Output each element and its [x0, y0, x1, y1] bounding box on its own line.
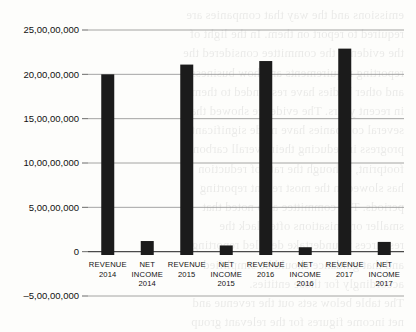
- x-axis-category-label: 2017: [376, 279, 394, 288]
- x-axis-category-label: INCOME: [369, 270, 400, 279]
- x-axis-labels: REVENUE2014NETINCOME2014REVENUE2015NETIN…: [89, 260, 400, 288]
- x-axis-category-label: INCOME: [132, 270, 163, 279]
- x-axis-category-label: REVENUE: [247, 260, 285, 269]
- x-axis-category-label: 2016: [297, 279, 315, 288]
- x-axis-category-label: REVENUE: [168, 260, 206, 269]
- y-axis-labels: 25,00,00,00020,00,00,00015,00,00,00010,0…: [24, 24, 79, 301]
- bar-series: [101, 49, 391, 255]
- y-axis-tick-label: 10,00,00,000: [24, 157, 79, 168]
- bar: [378, 242, 391, 255]
- x-axis-category-label: 2016: [257, 270, 275, 279]
- gridlines: [88, 30, 404, 296]
- x-axis-category-label: NET: [139, 260, 155, 269]
- x-axis-category-label: 2014: [139, 279, 157, 288]
- y-axis-tick-label: –5,00,00,000: [24, 290, 79, 301]
- bar: [101, 74, 114, 255]
- x-axis-category-label: NET: [297, 260, 313, 269]
- bar: [338, 49, 351, 255]
- x-axis-category-label: NET: [376, 260, 392, 269]
- x-axis-category-label: 2015: [218, 279, 236, 288]
- y-axis-tick-label: 15,00,00,000: [24, 113, 79, 124]
- x-axis-category-label: INCOME: [211, 270, 242, 279]
- bar: [180, 65, 193, 255]
- y-axis-tick-label: 20,00,00,000: [24, 69, 79, 80]
- x-axis-category-label: 2017: [336, 270, 354, 279]
- x-axis-category-label: REVENUE: [326, 260, 364, 269]
- x-axis-category-label: REVENUE: [89, 260, 127, 269]
- x-axis-category-label: 2015: [178, 270, 196, 279]
- x-axis-category-label: 2014: [99, 270, 117, 279]
- x-axis-category-label: NET: [218, 260, 234, 269]
- bar: [141, 241, 154, 255]
- bar: [299, 247, 312, 255]
- y-axis-tick-label: 5,00,00,000: [29, 202, 79, 213]
- axis-ticks: [82, 30, 88, 296]
- x-axis-category-label: INCOME: [290, 270, 321, 279]
- y-axis-tick-label: 0: [74, 246, 79, 257]
- bar: [220, 245, 233, 255]
- y-axis-tick-label: 25,00,00,000: [24, 24, 79, 35]
- bar: [259, 61, 272, 255]
